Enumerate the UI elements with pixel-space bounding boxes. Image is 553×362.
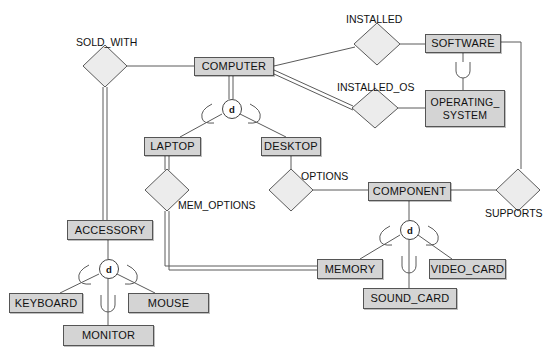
entity-laptop[interactable]: LAPTOP [144, 137, 201, 156]
specialization-circle-component[interactable]: d [400, 220, 420, 240]
wire-compspec-videocard [418, 235, 452, 259]
wire-computer-installed [274, 47, 355, 66]
label-installed: INSTALLED [346, 13, 402, 25]
subset-u-os [456, 62, 470, 78]
arc-computer-spec-left [202, 104, 214, 123]
entity-keyboard[interactable]: KEYBOARD [9, 293, 83, 313]
wire-spec-desktop [240, 114, 286, 137]
specialization-circle-computer[interactable]: d [222, 99, 242, 119]
diamond-installed [354, 23, 400, 65]
wire-accspec-mouse [117, 274, 155, 293]
entity-software[interactable]: SOFTWARE [425, 34, 501, 53]
label-sold-with: SOLD_WITH [76, 36, 137, 48]
arc-computer-spec-right [248, 104, 260, 123]
diamond-installed-os [352, 88, 398, 128]
entity-monitor[interactable]: MONITOR [63, 325, 154, 346]
entity-component[interactable]: COMPONENT [368, 182, 451, 201]
entity-desktop[interactable]: DESKTOP [261, 137, 321, 156]
entity-sound-card[interactable]: SOUND_CARD [363, 288, 457, 309]
entity-video-card[interactable]: VIDEO_CARD [429, 259, 506, 279]
entity-operating-system[interactable]: OPERATING_ SYSTEM [425, 90, 505, 127]
label-supports: SUPPORTS [485, 207, 543, 219]
entity-mouse[interactable]: MOUSE [128, 293, 209, 313]
diamond-supports [496, 169, 540, 211]
diamond-sold-with [83, 45, 127, 87]
entity-accessory[interactable]: ACCESSORY [67, 220, 153, 240]
arc-component-spec-left [380, 226, 392, 245]
wire-accspec-keyboard [60, 274, 99, 293]
entity-memory[interactable]: MEMORY [317, 259, 383, 279]
label-options: OPTIONS [301, 170, 348, 182]
entity-computer[interactable]: COMPUTER [194, 57, 274, 76]
specialization-circle-accessory[interactable]: d [99, 259, 119, 279]
label-mem-options: MEM_OPTIONS [178, 199, 256, 211]
eer-diagram-canvas: COMPUTER SOFTWARE OPERATING_ SYSTEM LAPT… [0, 0, 553, 362]
wire-spec-laptop [180, 114, 222, 137]
label-installed-os: INSTALLED_OS [337, 81, 414, 93]
